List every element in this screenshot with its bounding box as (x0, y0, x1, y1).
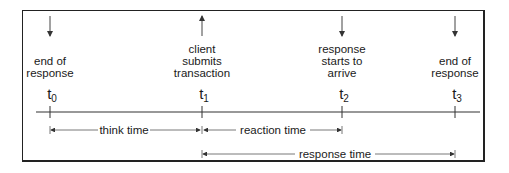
interval-reaction-time: reaction time (239, 124, 307, 136)
tick-t3: t3 (452, 85, 462, 104)
event-label-t0: end of response (26, 55, 73, 79)
event-label-t2: response starts to arrive (318, 43, 365, 79)
interval-response-time: response time (298, 148, 372, 160)
tick-t0: t0 (47, 85, 57, 104)
timeline-lines (0, 0, 509, 173)
tick-t2: t2 (339, 85, 349, 104)
interval-think-time: think time (98, 124, 149, 136)
event-label-t1: client submits transaction (174, 43, 230, 79)
tick-t1: t1 (199, 85, 209, 104)
event-label-t3: end of response (431, 55, 478, 79)
